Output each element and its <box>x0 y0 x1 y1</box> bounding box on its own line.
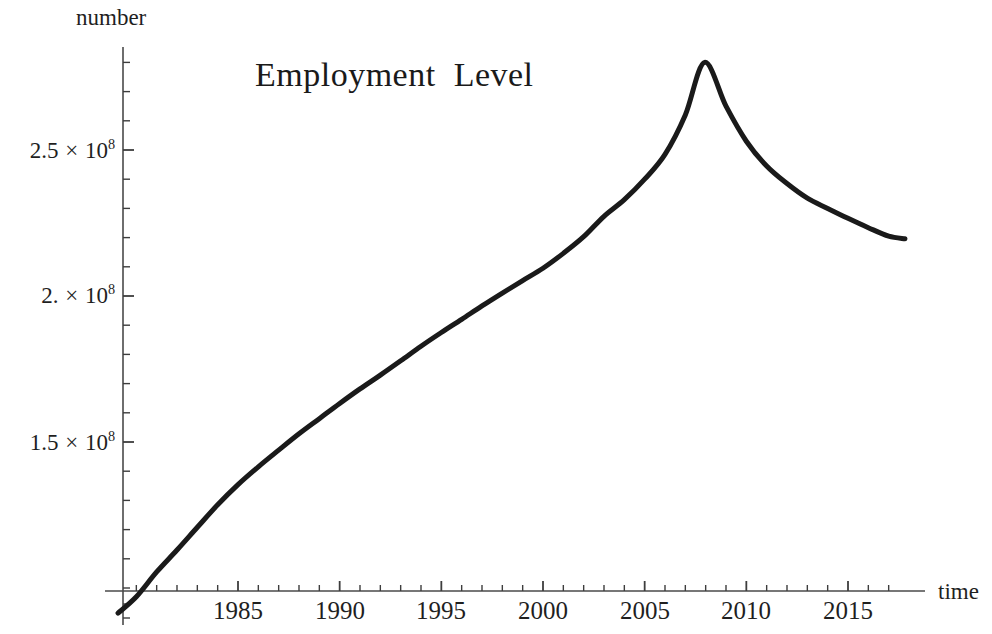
x-axis-ticks <box>136 581 888 591</box>
chart-figure: Employment Level number time 2.5 × 1082.… <box>0 0 992 634</box>
plot-area <box>0 0 992 634</box>
y-axis-ticks <box>123 62 134 618</box>
data-series-line <box>118 62 905 613</box>
axes <box>105 47 925 625</box>
